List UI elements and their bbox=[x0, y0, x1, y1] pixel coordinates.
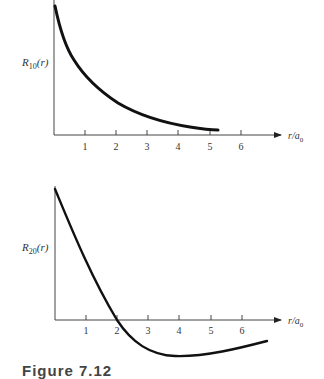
figure-caption: Figure 7.12 bbox=[22, 362, 112, 379]
y-label-r20: R20(r) bbox=[21, 241, 49, 256]
y-label-r10: R10(r) bbox=[21, 56, 49, 71]
tick-label: 5 bbox=[209, 325, 214, 336]
plot-r10: 1 2 3 4 5 6 R10(r) r/a0 bbox=[21, 0, 304, 152]
tick-label: 1 bbox=[83, 141, 88, 152]
tick-label: 1 bbox=[84, 325, 89, 336]
plot-r20: 1 2 3 4 5 6 R20(r) r/a0 bbox=[21, 186, 304, 356]
tick-label: 2 bbox=[115, 325, 120, 336]
tick-label: 3 bbox=[145, 141, 150, 152]
tick-label: 6 bbox=[239, 141, 244, 152]
tick-label: 3 bbox=[146, 325, 151, 336]
curve-r10 bbox=[55, 6, 218, 130]
tick-label: 5 bbox=[208, 141, 213, 152]
tick-label: 4 bbox=[176, 141, 181, 152]
x-label-r20: r/a0 bbox=[288, 315, 304, 329]
tick-label: 4 bbox=[177, 325, 182, 336]
x-ticks-r10: 1 2 3 4 5 6 bbox=[83, 130, 244, 152]
x-label-r10: r/a0 bbox=[288, 130, 304, 144]
x-ticks-r20: 1 2 3 4 5 6 bbox=[84, 315, 245, 336]
tick-label: 6 bbox=[240, 325, 245, 336]
tick-label: 2 bbox=[114, 141, 119, 152]
